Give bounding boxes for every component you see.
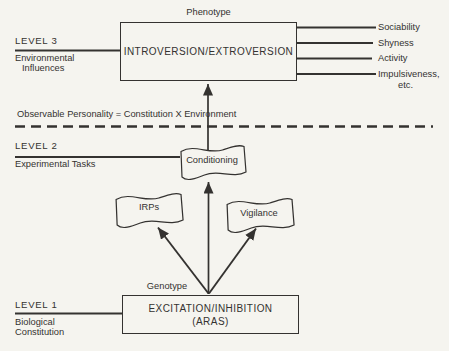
observable-personality-equation: Observable Personality = Constitution X … bbox=[17, 109, 236, 119]
trait-sociability: Sociability bbox=[378, 22, 420, 32]
introversion-extroversion-label: INTROVERSION/EXTROVERSION bbox=[124, 46, 294, 57]
level3-title: LEVEL 3 bbox=[15, 36, 57, 46]
genotype-label: Genotype bbox=[130, 281, 204, 291]
vigilance-banner-label: Vigilance bbox=[224, 208, 294, 218]
level1-desc-constitution: Constitution bbox=[15, 327, 64, 337]
trait-shyness: Shyness bbox=[378, 38, 414, 48]
trait-etc: etc. bbox=[398, 80, 413, 90]
phenotype-label: Phenotype bbox=[120, 7, 297, 17]
level1-desc-biological: Biological bbox=[15, 317, 55, 327]
level2-title: LEVEL 2 bbox=[15, 141, 57, 151]
eysenck-personality-model-diagram: INTROVERSION/EXTROVERSION EXCITATION/INH… bbox=[0, 0, 449, 351]
trait-impulsiveness: Impulsiveness, bbox=[378, 69, 440, 79]
conditioning-banner-label: Conditioning bbox=[179, 155, 245, 165]
trait-activity: Activity bbox=[378, 53, 407, 63]
trait-connector-lines bbox=[296, 28, 376, 75]
aras-label: (ARAS) bbox=[192, 316, 229, 327]
excitation-inhibition-label: EXCITATION/INHIBITION bbox=[148, 303, 272, 314]
level3-desc-environmental: Environmental bbox=[15, 53, 74, 63]
level3-desc-influences: Influences bbox=[22, 63, 64, 73]
level2-desc-experimental-tasks: Experimental Tasks bbox=[15, 159, 95, 169]
introversion-extroversion-box: INTROVERSION/EXTROVERSION bbox=[120, 22, 297, 81]
arrow-genotype-to-vigilance bbox=[209, 229, 256, 294]
excitation-inhibition-box: EXCITATION/INHIBITION (ARAS) bbox=[122, 295, 299, 334]
level1-title: LEVEL 1 bbox=[15, 300, 57, 310]
irps-banner-label: IRPs bbox=[114, 202, 184, 212]
